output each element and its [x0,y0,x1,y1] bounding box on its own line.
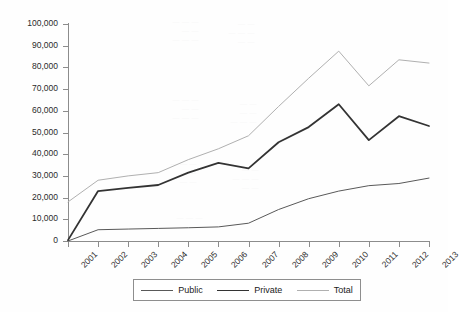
legend-swatch-private [217,290,249,291]
legend-label: Public [178,285,203,295]
series-line-public [68,178,429,241]
legend-item-private[interactable]: Private [217,285,282,295]
legend-label: Private [254,285,282,295]
legend-item-total[interactable]: Total [297,285,353,295]
series-line-total [68,51,429,202]
chart-legend: PublicPrivateTotal [133,279,361,301]
legend-swatch-public [141,290,173,291]
series-line-private [68,104,429,240]
legend-item-public[interactable]: Public [141,285,203,295]
legend-swatch-total [297,290,329,291]
legend-label: Total [334,285,353,295]
